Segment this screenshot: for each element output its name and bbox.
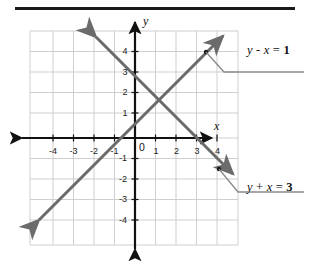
y-tick-label: -4 <box>115 215 131 225</box>
x-tick-label: 1 <box>148 146 164 156</box>
origin-label: 0 <box>139 141 145 153</box>
equation-1-operator: - <box>253 43 264 57</box>
equation-2-operator: + <box>253 180 267 194</box>
x-tick-label: 3 <box>189 146 205 156</box>
y-tick-label: -2 <box>115 174 131 184</box>
y-axis-label: y <box>143 14 148 29</box>
y-tick-label: 3 <box>117 67 133 77</box>
y-tick-label: 2 <box>117 87 133 97</box>
coordinate-plane-figure <box>0 0 310 266</box>
y-tick-label: 4 <box>117 46 133 56</box>
series-line-1 <box>39 36 223 220</box>
equation-1-equals: = <box>270 43 284 57</box>
equation-2-equals: = <box>272 180 286 194</box>
x-tick-label: -4 <box>45 146 61 156</box>
x-axis-label: x <box>214 119 219 134</box>
x-tick-label: -3 <box>66 146 82 156</box>
y-tick-label: -3 <box>115 194 131 204</box>
equation-label-line-2: y + x = 3 <box>247 180 293 195</box>
x-tick-label: 4 <box>210 146 226 156</box>
y-tick-label: 1 <box>117 108 133 118</box>
equation-label-line-1: y - x = 1 <box>247 43 290 58</box>
equation-1-rhs: 1 <box>283 43 289 57</box>
x-tick-label: 2 <box>169 146 185 156</box>
y-tick-label: -1 <box>115 153 131 163</box>
equation-2-rhs: 3 <box>286 180 292 194</box>
x-tick-label: -2 <box>86 146 102 156</box>
